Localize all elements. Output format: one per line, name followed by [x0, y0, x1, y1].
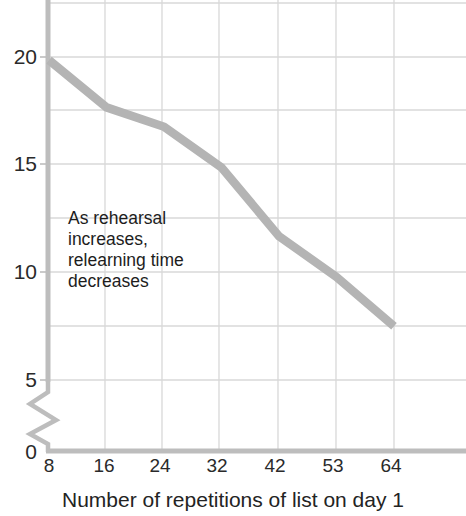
ytick-label-0: 0: [25, 440, 37, 463]
ytick-label-15: 15: [14, 152, 37, 175]
x-axis-title: Number of repetitions of list on day 1: [62, 488, 404, 511]
annotation-line-3: relearning time: [68, 250, 184, 270]
annotation-line-2: increases,: [68, 229, 148, 249]
xtick-label-32: 32: [206, 455, 227, 476]
annotation-line-1: As rehearsal: [68, 208, 166, 228]
line-chart: 20 15 10 5 0 8 16 24 32 42 53 64 Number …: [0, 0, 466, 516]
ytick-label-10: 10: [14, 260, 37, 283]
ytick-label-5: 5: [25, 368, 37, 391]
xtick-label-53: 53: [322, 455, 343, 476]
annotation-line-4: decreases: [68, 271, 149, 291]
xtick-label-42: 42: [264, 455, 285, 476]
xtick-label-8: 8: [44, 455, 55, 476]
ytick-label-20: 20: [14, 45, 37, 68]
xtick-label-24: 24: [149, 455, 171, 476]
xtick-label-64: 64: [380, 455, 402, 476]
xtick-label-16: 16: [93, 455, 114, 476]
chart-container: 20 15 10 5 0 8 16 24 32 42 53 64 Number …: [0, 0, 466, 516]
